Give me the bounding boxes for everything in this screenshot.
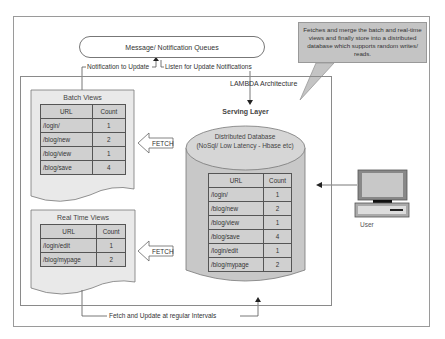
- serving-layer-title: Serving Layer: [177, 108, 314, 115]
- notification-to-update-label: Notification to Update: [87, 63, 149, 70]
- table-row: /login/1: [41, 119, 126, 133]
- serving-layer-table: URLCount /login/1 /blog/new2 /blog/view1…: [208, 173, 292, 272]
- table-row: /blog/mypage2: [41, 253, 126, 267]
- table-row: /login/1: [209, 188, 292, 202]
- message-queue: Message/ Notification Queues: [79, 36, 265, 58]
- batch-views-table: URLCount /login/1 /blog/new2 /blog/view1…: [40, 104, 126, 175]
- table-row: /login/edit1: [41, 239, 126, 253]
- table-row: /blog/new2: [209, 202, 292, 216]
- table-row: /blog/new2: [41, 133, 126, 147]
- serving-layer-callout: Fetches and merge the batch and real-tim…: [298, 22, 427, 63]
- table-row: /login/edit1: [209, 244, 292, 258]
- table-row: /blog/view1: [41, 147, 126, 161]
- table-row: /blog/mypage2: [209, 258, 292, 272]
- fetch-label-batch: FETCH: [152, 140, 174, 147]
- batch-views-title: Batch Views: [31, 94, 134, 101]
- listen-for-updates-label: Listen for Update Notifications: [165, 63, 252, 70]
- table-row: /blog/save4: [209, 230, 292, 244]
- user-label: User: [360, 221, 374, 228]
- table-row: /blog/save4: [41, 161, 126, 175]
- table-row: /blog/view1: [209, 216, 292, 230]
- database-label: Distributed Database (NoSql/ Low Latency…: [183, 132, 307, 150]
- fetch-label-realtime: FETCH: [152, 248, 174, 255]
- real-time-views-title: Real Time Views: [31, 214, 135, 221]
- lambda-title: LAMBDA Architecture: [230, 80, 297, 87]
- real-time-views-table: URLCount /login/edit1 /blog/mypage2: [40, 224, 126, 267]
- queue-label: Message/ Notification Queues: [125, 44, 218, 51]
- fetch-update-label: Fetch and Update at regular Intervals: [109, 312, 216, 319]
